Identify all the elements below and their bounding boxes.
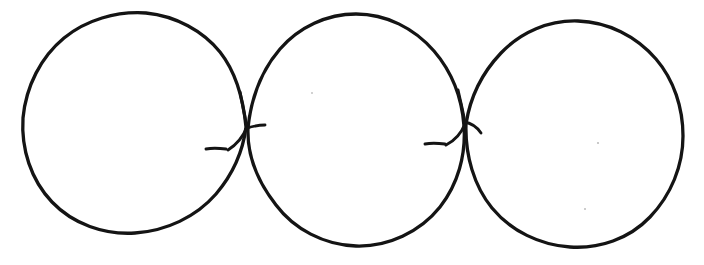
right-circle — [466, 21, 683, 247]
left-circle — [23, 13, 246, 234]
speck — [584, 208, 586, 210]
speck — [311, 92, 313, 94]
paper-specks — [311, 92, 599, 210]
middle-right-spur-lower — [425, 143, 445, 144]
left-middle-spur-lower — [206, 148, 226, 149]
middle-right-cusp-lower — [446, 124, 465, 145]
middle-circle — [248, 14, 464, 246]
left-middle-cusp-upper — [240, 92, 247, 127]
left-circle-outline — [23, 13, 246, 234]
middle-right-cusp-upper — [458, 90, 465, 124]
line-drawing-svg: Three tangent circles Hand-drawn line ar… — [0, 0, 704, 265]
middle-circle-outline — [248, 14, 464, 246]
right-circle-outline — [466, 21, 683, 247]
drawing-canvas: Three tangent circles Hand-drawn line ar… — [0, 0, 704, 265]
speck — [597, 142, 599, 144]
left-middle-junction — [206, 92, 265, 150]
